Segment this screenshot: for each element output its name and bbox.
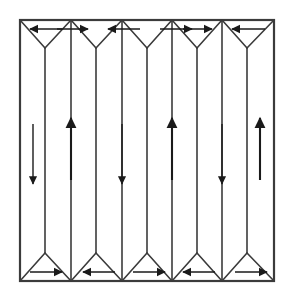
domain-diagram-figure [0, 0, 292, 303]
closure-domain-svg [0, 0, 292, 303]
